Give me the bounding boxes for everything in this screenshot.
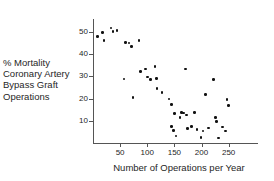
x-tick-mark [229,143,230,147]
y-tick-label-wrap: 20 [70,95,88,103]
data-point [185,114,188,117]
data-point [161,91,164,94]
y-tick-label: 40 [72,50,88,58]
y-tick-mark [89,76,93,77]
data-point [156,87,159,90]
y-tick-label-wrap: 40 [70,50,88,58]
data-point [190,125,193,128]
y-tick-label-wrap: 50 [70,28,88,36]
x-tick-label: 100 [135,149,159,157]
data-point [123,78,126,81]
data-point [217,137,220,140]
plot-area: 1020304050 50100150200250 [0,0,274,181]
x-tick-label: 150 [162,149,186,157]
data-point [132,96,135,99]
scatter-plot-figure: % Mortality Coronary Artery Bypass Graft… [0,0,274,181]
data-point [146,76,149,79]
y-tick-mark [89,54,93,55]
data-point [103,39,106,42]
data-point [226,98,229,101]
data-point [144,68,147,71]
data-point [202,130,205,133]
data-point [173,112,176,115]
data-point [184,68,187,71]
data-point [138,39,141,42]
x-tick-mark [202,143,203,147]
x-axis-line [93,143,258,144]
data-point [112,30,115,33]
data-point [179,116,182,119]
y-tick-label-wrap: 30 [70,72,88,80]
y-tick-label-wrap: 10 [70,117,88,125]
data-point [170,103,173,106]
x-tick-mark [174,143,175,147]
data-point [224,130,227,133]
x-tick-mark [147,143,148,147]
data-point [168,98,171,101]
y-tick-mark [89,99,93,100]
data-point [214,116,217,119]
data-point [96,35,99,38]
data-point [139,70,142,73]
data-point [130,45,133,48]
data-point [172,129,175,132]
data-point [110,27,113,30]
data-point [207,127,210,130]
data-point [215,120,218,123]
data-point [227,104,230,107]
y-tick-mark [89,121,93,122]
data-point [155,77,158,80]
data-point [124,41,127,44]
data-point [101,31,104,34]
data-point [193,111,196,114]
y-tick-label: 20 [72,95,88,103]
data-point [154,65,157,68]
y-tick-mark [89,32,93,33]
data-point [149,78,152,81]
data-point [128,42,131,45]
data-point [170,125,173,128]
data-point [196,128,199,131]
x-tick-label: 200 [190,149,214,157]
x-tick-mark [120,143,121,147]
data-point [186,127,189,130]
data-point [200,136,203,139]
x-tick-label: 250 [217,149,241,157]
y-tick-label: 50 [72,28,88,36]
data-point [212,78,215,81]
y-tick-label: 30 [72,72,88,80]
x-tick-label: 50 [108,149,132,157]
y-axis-line [93,19,94,143]
data-point [221,126,224,129]
data-point [116,29,119,32]
x-axis-title: Number of Operations per Year [93,162,265,173]
y-tick-label: 10 [72,117,88,125]
data-point [204,93,207,96]
data-point [175,135,178,138]
